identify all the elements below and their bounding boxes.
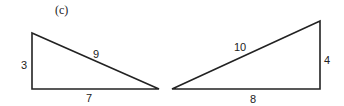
- left-triangle-vertical-label: 3: [21, 59, 27, 71]
- right-triangle: 10 4 8: [172, 21, 330, 105]
- right-triangle-horizontal-label: 8: [250, 93, 256, 105]
- right-triangle-vertical-label: 4: [324, 54, 330, 66]
- left-triangle-horizontal-label: 7: [86, 92, 92, 104]
- figure-caption: (c): [55, 3, 68, 17]
- right-triangle-hypotenuse-label: 10: [234, 41, 246, 53]
- left-triangle-hypotenuse-label: 9: [93, 48, 99, 60]
- left-triangle: 3 9 7: [21, 33, 159, 104]
- triangles-diagram: (c) 3 9 7 10 4 8: [0, 0, 344, 106]
